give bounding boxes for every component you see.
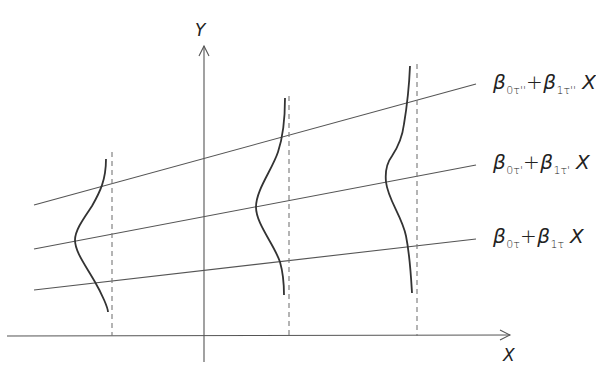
regression-line-tau-double-prime bbox=[34, 84, 476, 205]
distribution-curve-2 bbox=[256, 98, 285, 295]
equation-label-tau: β0τ+β1τX bbox=[493, 224, 584, 251]
regression-line-tau-prime bbox=[34, 165, 476, 249]
y-axis-label: Y bbox=[195, 20, 205, 40]
y-axis bbox=[199, 46, 209, 362]
x-axis bbox=[7, 330, 510, 340]
x-axis-label: X bbox=[503, 345, 515, 365]
equation-label-tau-double-prime: β0τ''+β1τ''X bbox=[493, 70, 596, 97]
equation-label-tau-prime: β0τ'+β1τ'X bbox=[493, 150, 590, 177]
